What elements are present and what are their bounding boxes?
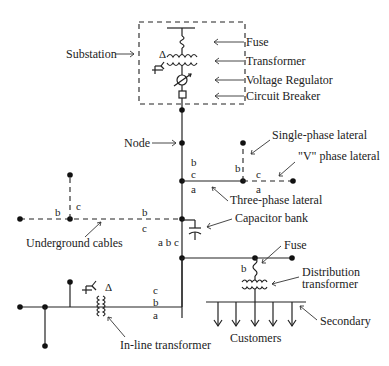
label-capacitor-bank: Capacitor bank (235, 211, 308, 225)
fuse-icon (180, 36, 184, 48)
svg-text:c: c (153, 284, 158, 296)
svg-text:c: c (76, 200, 81, 212)
svg-text:b: b (142, 206, 148, 218)
svg-text:c: c (142, 222, 147, 234)
svg-text:b: b (191, 156, 197, 168)
transformer-icon (167, 55, 197, 66)
inline-delta-symbol: Δ (105, 281, 112, 293)
svg-text:c: c (256, 168, 261, 180)
node-point (179, 140, 185, 146)
label-inline-transformer: In-line transformer (120, 338, 211, 352)
circuit-breaker-icon (179, 91, 186, 98)
delta-symbol: Δ (159, 48, 166, 60)
label-fuse-bottom: Fuse (284, 238, 307, 252)
label-underground-cables: Underground cables (26, 236, 123, 250)
label-node: Node (124, 136, 150, 150)
svg-text:b: b (241, 262, 247, 274)
svg-text:a b c: a b c (158, 236, 179, 248)
inline-grounded-wye-icon (82, 281, 96, 294)
svg-text:b: b (235, 162, 241, 174)
svg-text:b: b (153, 296, 159, 308)
label-v-phase-lateral: "V" phase lateral (298, 149, 380, 163)
customer-arrows (214, 302, 296, 326)
label-circuit-breaker: Circuit Breaker (246, 89, 320, 103)
svg-text:b: b (55, 206, 61, 218)
label-substation: Substation (66, 47, 117, 61)
svg-text:a: a (191, 183, 196, 195)
grounded-wye-icon (152, 62, 164, 74)
substation-box (139, 22, 245, 104)
label-fuse-top: Fuse (246, 35, 269, 49)
label-single-phase-lateral: Single-phase lateral (272, 128, 368, 142)
label-transformer: Transformer (246, 54, 306, 68)
distribution-transformer-icon (242, 280, 267, 289)
inline-transformer-icon (97, 296, 105, 316)
capacitor-bank-icon (182, 220, 201, 240)
label-customers: Customers (230, 331, 282, 345)
feeder-diagram: Δ (0, 0, 389, 366)
svg-text:a: a (153, 309, 158, 321)
label-voltage-regulator: Voltage Regulator (246, 73, 333, 87)
label-secondary: Secondary (320, 314, 371, 328)
label-three-phase-lateral: Three-phase lateral (230, 193, 323, 207)
svg-text:transformer: transformer (302, 277, 358, 291)
svg-text:c: c (191, 168, 196, 180)
